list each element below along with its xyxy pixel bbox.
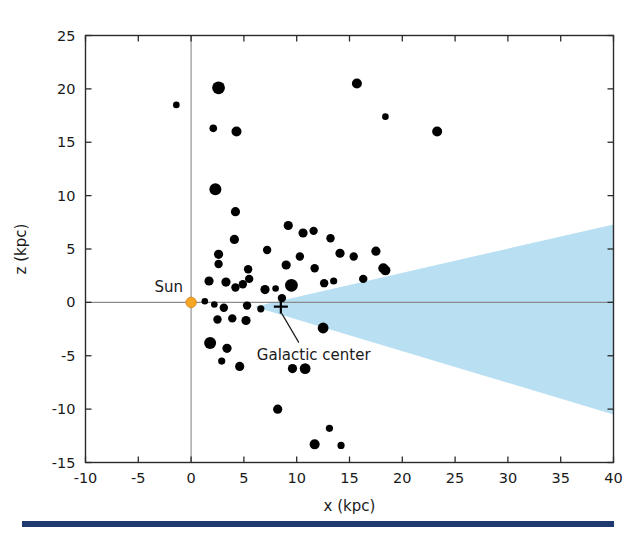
data-point: [214, 260, 222, 268]
x-tick-labels: -10-50510152025303540: [74, 470, 623, 486]
data-point: [298, 228, 307, 237]
data-point: [326, 425, 333, 432]
x-tick-label: 15: [340, 470, 358, 486]
data-point: [214, 250, 223, 259]
x-tick-label: 30: [499, 470, 517, 486]
y-tick-label: 5: [66, 241, 75, 257]
data-point: [318, 323, 329, 334]
data-point: [326, 234, 334, 242]
data-point: [232, 127, 242, 137]
data-point: [173, 102, 180, 109]
sun-label: Sun: [155, 278, 184, 296]
data-point: [335, 249, 344, 258]
data-point: [257, 305, 264, 312]
data-point: [231, 283, 239, 291]
x-tick-label: -5: [131, 470, 145, 486]
data-point: [213, 315, 221, 323]
y-axis-label: z (kpc): [12, 224, 30, 275]
galactic-center-label: Galactic center: [257, 346, 372, 364]
y-tick-label: 25: [57, 28, 75, 44]
data-point: [231, 207, 240, 216]
data-point: [245, 275, 253, 283]
data-point: [243, 301, 251, 309]
x-tick-label: 5: [239, 470, 248, 486]
data-point: [282, 260, 291, 269]
galactic-disk-wedge: [254, 224, 613, 414]
data-point: [337, 442, 344, 449]
data-point: [204, 276, 213, 285]
data-point: [382, 113, 389, 120]
x-axis-label: x (kpc): [324, 497, 376, 515]
data-point: [310, 439, 320, 449]
data-point: [285, 279, 298, 292]
data-point: [222, 344, 231, 353]
data-point: [380, 265, 390, 275]
data-point: [273, 405, 282, 414]
y-tick-label: -10: [52, 401, 76, 417]
data-point: [209, 183, 221, 195]
data-point: [352, 79, 362, 89]
sun-marker: [186, 297, 196, 307]
data-point: [230, 235, 239, 244]
y-tick-label: 0: [66, 294, 75, 310]
data-point: [309, 227, 317, 235]
data-point: [432, 127, 442, 137]
data-point: [263, 246, 271, 254]
data-point: [320, 279, 328, 287]
data-point: [359, 275, 367, 283]
data-point: [235, 362, 244, 371]
x-tick-label: 20: [393, 470, 411, 486]
y-tick-label: 10: [57, 188, 75, 204]
bottom-accent-bar: [22, 521, 614, 527]
y-tick-label: -15: [52, 455, 76, 471]
y-tick-label: -5: [61, 348, 75, 364]
data-point: [350, 252, 358, 260]
x-tick-label: 10: [287, 470, 305, 486]
data-point: [228, 314, 236, 322]
x-tick-label: 35: [551, 470, 569, 486]
data-point: [220, 304, 228, 312]
data-point: [260, 285, 269, 294]
x-tick-label: -10: [74, 470, 98, 486]
scatter-figure: -10-50510152025303540 -15-10-50510152025…: [0, 0, 636, 533]
data-point: [296, 252, 304, 260]
y-tick-labels: -15-10-50510152025: [52, 28, 76, 471]
x-tick-label: 25: [446, 470, 464, 486]
data-point: [371, 247, 380, 256]
data-point: [288, 364, 297, 373]
y-tick-label: 15: [57, 134, 75, 150]
data-points: [173, 79, 442, 450]
data-point: [204, 337, 216, 349]
data-point: [209, 125, 217, 133]
y-tick-label: 20: [57, 81, 75, 97]
data-point: [284, 221, 293, 230]
data-point: [202, 298, 209, 305]
data-point: [221, 277, 230, 286]
data-point: [310, 264, 318, 272]
data-point: [330, 277, 337, 284]
data-point: [300, 363, 311, 374]
data-point: [272, 285, 279, 292]
data-point: [218, 357, 225, 364]
globular-cluster-scatter-plot: -10-50510152025303540 -15-10-50510152025…: [0, 0, 636, 533]
x-tick-label: 40: [604, 470, 622, 486]
data-point: [244, 265, 252, 273]
data-point: [212, 81, 225, 94]
x-tick-label: 0: [186, 470, 195, 486]
data-point: [211, 301, 218, 308]
data-point: [241, 316, 250, 325]
